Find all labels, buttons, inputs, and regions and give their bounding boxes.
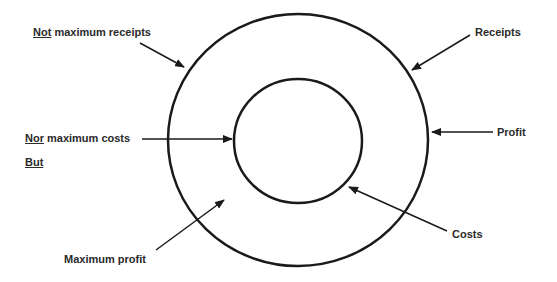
arrow-not-max-receipts [140,43,184,67]
label-maximum-profit: Maximum profit [64,253,146,265]
label-emphasis-not: Not [33,26,51,38]
label-emphasis-nor: Nor [25,132,44,144]
arrow-maximum-profit [156,200,224,250]
label-receipts: Receipts [475,26,521,38]
label-but: But [25,156,43,168]
concentric-profit-diagram: Not maximum receipts Nor maximum costs B… [0,0,557,282]
label-costs: Costs [452,228,483,240]
label-text: maximum costs [44,132,130,144]
label-emphasis-but: But [25,156,43,168]
label-text: maximum receipts [51,26,151,38]
label-profit: Profit [497,126,526,138]
label-nor-maximum-costs: Nor maximum costs [25,132,130,144]
costs-circle [234,79,362,203]
receipts-circle [168,14,428,266]
arrow-costs [349,187,447,231]
label-not-maximum-receipts: Not maximum receipts [33,26,151,38]
arrow-receipts [412,35,470,70]
